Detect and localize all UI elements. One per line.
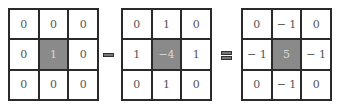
matrix-cell: 1 [122,39,152,69]
matrix-center-cell: 5 [272,39,302,69]
matrix-cell: − 1 [272,9,302,39]
minus-operator-icon [103,53,114,57]
matrix-cell: 0 [68,9,98,39]
matrix-cell: 0 [39,9,69,39]
matrix-cell: 1 [181,39,211,69]
laplacian-matrix: 0 1 0 1 −4 1 0 1 0 [121,8,212,101]
matrix-cell: 0 [39,70,69,100]
matrix-cell: 0 [9,39,39,69]
matrix-cell: 0 [242,70,272,100]
equals-operator-icon-top [221,51,232,55]
matrix-center-cell: −4 [152,39,182,69]
matrix-cell: 0 [68,70,98,100]
sharpen-matrix: 0 − 1 0 − 1 5 − 1 0 − 1 0 [241,8,332,101]
matrix-cell: 0 [181,9,211,39]
identity-matrix: 0 0 0 0 1 0 0 0 0 [8,8,99,101]
matrix-cell: 0 [301,9,331,39]
matrix-cell: 0 [9,70,39,100]
matrix-cell: 1 [152,9,182,39]
matrix-cell: 1 [152,70,182,100]
matrix-cell: − 1 [242,39,272,69]
matrix-cell: 0 [122,9,152,39]
matrix-cell: 0 [242,9,272,39]
matrix-cell: − 1 [301,39,331,69]
matrix-cell: − 1 [272,70,302,100]
matrix-cell: 0 [68,39,98,69]
equals-operator-icon-bottom [221,56,232,60]
matrix-cell: 0 [9,9,39,39]
matrix-center-cell: 1 [39,39,69,69]
matrix-cell: 0 [181,70,211,100]
matrix-cell: 0 [301,70,331,100]
matrix-cell: 0 [122,70,152,100]
